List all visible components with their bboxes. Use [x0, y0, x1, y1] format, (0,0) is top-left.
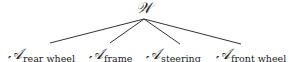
node-symbol: 𝒜	[216, 45, 230, 62]
node-symbol: 𝒜	[8, 45, 22, 62]
node-subscript: rear wheel	[23, 53, 75, 62]
node-subscript: frame	[104, 53, 132, 62]
root-symbol: 𝒲	[136, 0, 152, 17]
child-node-steering: 𝒜steering	[146, 46, 201, 62]
child-node-rear-wheel: 𝒜rear wheel	[8, 46, 75, 62]
child-node-frame: 𝒜frame	[89, 46, 132, 62]
edge-front-wheel	[144, 19, 241, 44]
root-node-w: 𝒲	[136, 0, 152, 16]
edge-steering	[144, 19, 180, 44]
edge-rear-wheel	[50, 19, 144, 43]
edge-frame	[110, 19, 144, 43]
node-subscript: front wheel	[231, 53, 286, 62]
node-symbol: 𝒜	[146, 45, 160, 62]
child-node-front-wheel: 𝒜front wheel	[216, 46, 286, 62]
node-symbol: 𝒜	[89, 45, 103, 62]
node-subscript: steering	[161, 53, 201, 62]
